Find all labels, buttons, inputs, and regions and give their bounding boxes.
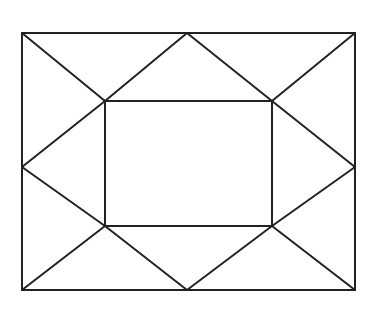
diag-topmid-to-inner-topright [187, 33, 272, 101]
diag-rightmid-to-inner-topright [272, 101, 355, 167]
diag-topmid-to-inner-topleft [105, 33, 187, 101]
geometric-figure [0, 0, 378, 309]
figure-canvas [0, 0, 378, 309]
diag-leftmid-to-inner-bottomleft [22, 167, 105, 226]
diag-topleft-corner-to-inner [22, 33, 105, 101]
diag-bottomright-corner-to-inner [272, 226, 355, 290]
inner-rectangle [105, 101, 272, 226]
diag-bottommid-to-inner-bottomright [187, 226, 272, 290]
diag-bottomleft-corner-to-inner [22, 226, 105, 290]
diag-bottommid-to-inner-bottomleft [105, 226, 187, 290]
diag-rightmid-to-inner-bottomright [272, 167, 355, 226]
diag-topright-corner-to-inner [272, 33, 355, 101]
diag-leftmid-to-inner-topleft [22, 101, 105, 167]
